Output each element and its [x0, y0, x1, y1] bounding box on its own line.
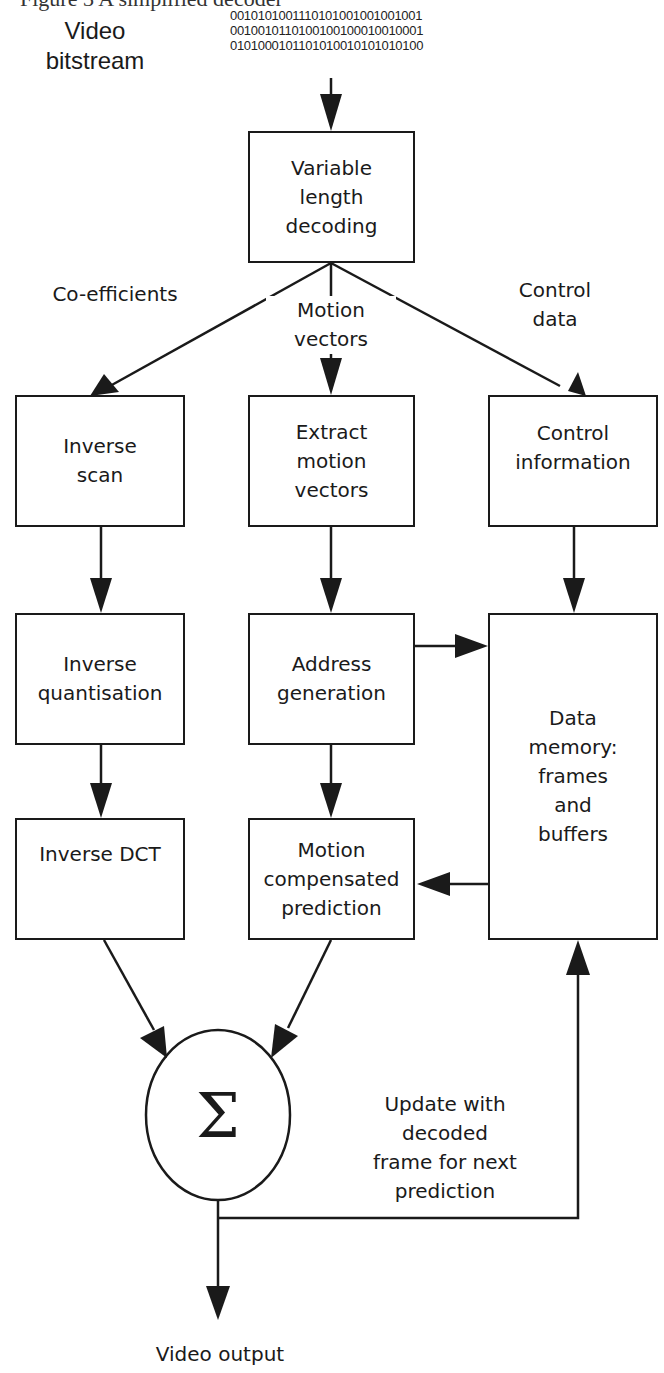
video-output-label: Video output [130, 1340, 310, 1369]
motion-vectors-label: Motion vectors [266, 296, 396, 354]
inverse-dct-block: Inverse DCT [15, 818, 185, 940]
control-data-label: Control data [500, 276, 610, 334]
extract-motion-vectors-block: Extract motion vectors [248, 395, 415, 527]
motion-compensated-prediction-block: Motion compensated prediction [248, 818, 415, 940]
control-information-block: Control information [488, 395, 658, 527]
inverse-quantisation-block: Inverse quantisation [15, 613, 185, 745]
variable-length-decoding-block: Variable length decoding [248, 131, 415, 263]
coefficients-label: Co-efficients [30, 280, 200, 309]
summation-node: Σ [146, 1030, 290, 1200]
address-generation-block: Address generation [248, 613, 415, 745]
data-memory-block: Data memory: frames and buffers [488, 613, 658, 940]
feedback-label: Update with decoded frame for next predi… [360, 1090, 530, 1206]
inverse-scan-block: Inverse scan [15, 395, 185, 527]
